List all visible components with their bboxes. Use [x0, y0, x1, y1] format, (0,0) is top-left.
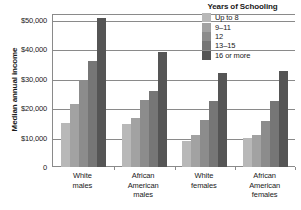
bar	[252, 135, 261, 167]
legend-swatch	[202, 23, 211, 32]
category-label-line: White	[174, 171, 235, 181]
bar	[79, 80, 88, 167]
legend: Years of Schooling Up to 89–111213–1516 …	[186, 2, 299, 60]
bar	[61, 123, 70, 167]
category-label-line: females	[174, 181, 235, 191]
category-label: AfricanAmericanmales	[113, 171, 174, 200]
bar	[209, 101, 218, 167]
x-tick	[114, 167, 115, 170]
category-label-line: males	[113, 190, 174, 200]
legend-label: 12	[215, 32, 223, 41]
category-label-line: African	[113, 171, 174, 181]
category-label-line: African	[234, 171, 295, 181]
category-label: AfricanAmericanfemales	[234, 171, 295, 200]
y-axis-tick-labels: $50,000$40,000$30,000$20,000$10,0000	[0, 0, 50, 210]
bar	[158, 52, 167, 167]
bar	[270, 101, 279, 167]
legend-item: 13–15	[186, 41, 299, 50]
bar	[131, 118, 140, 167]
legend-swatch	[202, 41, 211, 50]
category-label-line: American	[234, 181, 295, 191]
bar	[261, 121, 270, 167]
x-tick	[175, 167, 176, 170]
legend-item: Up to 8	[186, 13, 299, 22]
bar	[140, 100, 149, 167]
y-tick-label: $40,000	[21, 45, 47, 54]
bar-chart: Median annual income $50,000$40,000$30,0…	[0, 0, 301, 210]
legend-item: 12	[186, 32, 299, 41]
bar	[218, 73, 227, 167]
bar	[279, 71, 288, 167]
category-label-line: males	[52, 181, 113, 191]
x-tick	[235, 167, 236, 170]
bar	[191, 135, 200, 167]
legend-items: Up to 89–111213–1516 or more	[186, 13, 299, 60]
legend-item: 9–11	[186, 22, 299, 31]
category-label: Whitefemales	[174, 171, 235, 190]
y-tick-label: $50,000	[21, 15, 47, 24]
bar	[182, 141, 191, 167]
category-label-line: White	[52, 171, 113, 181]
x-tick	[295, 167, 296, 170]
category-label-line: females	[234, 190, 295, 200]
bar-group	[61, 15, 106, 167]
legend-swatch	[202, 32, 211, 41]
bar	[122, 124, 131, 167]
legend-title: Years of Schooling	[186, 2, 299, 11]
bar	[70, 104, 79, 167]
legend-label: Up to 8	[215, 13, 238, 22]
y-tick-label: $10,000	[21, 133, 47, 142]
legend-item: 16 or more	[186, 51, 299, 60]
y-tick-label: $30,000	[21, 74, 47, 83]
bar	[149, 91, 158, 168]
y-tick-label: 0	[43, 163, 47, 172]
legend-swatch	[202, 13, 211, 22]
legend-label: 9–11	[215, 23, 231, 32]
x-axis-category-labels: WhitemalesAfricanAmericanmalesWhitefemal…	[52, 171, 295, 210]
bar	[200, 120, 209, 167]
category-label-line: American	[113, 181, 174, 191]
legend-swatch	[202, 51, 211, 60]
bar	[243, 138, 252, 167]
y-tick-label: $20,000	[21, 104, 47, 113]
bar	[97, 18, 106, 167]
legend-label: 13–15	[215, 41, 235, 50]
category-label: Whitemales	[52, 171, 113, 190]
legend-label: 16 or more	[215, 51, 250, 60]
bar	[88, 61, 97, 167]
bar-group	[122, 15, 167, 167]
